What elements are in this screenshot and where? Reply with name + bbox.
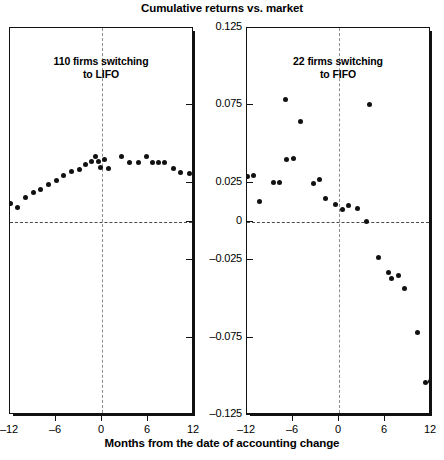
data-point xyxy=(136,160,141,165)
y-axis-tick-label: 0.125 xyxy=(196,20,242,32)
data-point xyxy=(376,255,381,260)
data-point xyxy=(144,154,149,159)
panel-annotation-lifo-line1: 110 firms switching xyxy=(10,55,192,68)
data-point xyxy=(247,174,250,179)
data-point xyxy=(257,199,262,204)
y-axis-tick-label: –0.075 xyxy=(196,330,242,342)
x-axis-tick xyxy=(338,414,339,421)
y-axis-tick xyxy=(246,27,253,28)
data-point xyxy=(311,181,316,186)
zero-month-reference-line xyxy=(339,28,340,413)
x-axis-tick xyxy=(101,414,102,421)
y-axis-tick-label: –0.025 xyxy=(196,252,242,264)
x-axis-tick-label: 0 xyxy=(325,423,351,435)
x-axis-tick-label: 12 xyxy=(180,423,206,435)
y-axis-tick-label: 0.075 xyxy=(196,97,242,109)
plot-panel-lifo: 110 firms switching to LIFO xyxy=(9,27,193,414)
zero-return-reference-line xyxy=(10,222,192,223)
y-axis-tick xyxy=(246,182,253,183)
data-point xyxy=(69,169,74,174)
data-point xyxy=(38,187,43,192)
y-axis-tick-label: 0.025 xyxy=(196,175,242,187)
data-point xyxy=(386,270,391,275)
panel-annotation-fifo-line2: to FIFO xyxy=(247,68,429,81)
y-axis-tick xyxy=(186,221,193,222)
data-point xyxy=(162,160,167,165)
data-point xyxy=(106,166,111,171)
x-axis-tick-label: –12 xyxy=(233,423,259,435)
data-point xyxy=(291,156,296,161)
data-point xyxy=(428,379,429,384)
plot-area-lifo xyxy=(10,28,192,413)
data-point xyxy=(119,154,124,159)
chart-title: Cumulative returns vs. market xyxy=(0,2,444,14)
data-point xyxy=(415,330,420,335)
data-point xyxy=(346,203,351,208)
x-axis-title: Months from the date of accounting chang… xyxy=(0,437,444,449)
data-point xyxy=(15,205,20,210)
data-point xyxy=(171,166,176,171)
y-axis-tick xyxy=(186,259,193,260)
y-axis-tick xyxy=(186,104,193,105)
x-axis-tick-label: –12 xyxy=(0,423,22,435)
panel-annotation-lifo: 110 firms switching to LIFO xyxy=(10,55,192,81)
y-axis-tick-label: –0.125 xyxy=(196,407,242,419)
x-axis-tick xyxy=(55,414,56,421)
plot-area-fifo xyxy=(247,28,429,413)
data-point xyxy=(389,276,394,281)
data-point xyxy=(323,196,328,201)
zero-return-reference-line xyxy=(247,222,429,223)
data-point xyxy=(96,159,101,164)
data-point xyxy=(283,97,288,102)
panel-annotation-lifo-line2: to LIFO xyxy=(10,68,192,81)
x-axis-tick-label: 12 xyxy=(417,423,443,435)
data-point xyxy=(317,177,322,182)
zero-month-reference-line xyxy=(102,28,103,413)
data-point xyxy=(271,180,276,185)
data-point xyxy=(396,273,401,278)
data-point xyxy=(251,173,256,178)
data-point xyxy=(150,160,155,165)
data-point xyxy=(77,167,82,172)
data-point xyxy=(364,219,369,224)
x-axis-tick xyxy=(384,414,385,421)
data-point xyxy=(31,190,36,195)
data-point xyxy=(61,173,66,178)
x-axis-tick xyxy=(292,414,293,421)
x-axis-tick xyxy=(147,414,148,421)
data-point xyxy=(333,202,338,207)
data-point xyxy=(355,206,360,211)
y-axis-tick-label: 0 xyxy=(196,214,242,226)
x-axis-tick-label: 0 xyxy=(88,423,114,435)
data-point xyxy=(102,157,107,162)
panel-annotation-fifo-line1: 22 firms switching xyxy=(247,55,429,68)
data-point xyxy=(187,171,192,176)
x-axis-tick-label: –6 xyxy=(42,423,68,435)
data-point xyxy=(98,165,103,170)
data-point xyxy=(277,180,282,185)
y-axis-tick xyxy=(246,221,253,222)
data-point xyxy=(23,195,28,200)
y-axis-tick xyxy=(246,104,253,105)
x-axis-tick-label: 6 xyxy=(134,423,160,435)
y-axis-tick xyxy=(246,337,253,338)
data-point xyxy=(10,201,13,206)
data-point xyxy=(46,182,51,187)
plot-panel-fifo: 22 firms switching to FIFO xyxy=(246,27,430,414)
y-axis-tick xyxy=(186,337,193,338)
data-point xyxy=(284,157,289,162)
x-axis-tick-label: 6 xyxy=(371,423,397,435)
panel-annotation-fifo: 22 firms switching to FIFO xyxy=(247,55,429,81)
y-axis-tick xyxy=(186,182,193,183)
y-axis-tick xyxy=(186,27,193,28)
data-point xyxy=(298,119,303,124)
data-point xyxy=(83,162,88,167)
y-axis-tick xyxy=(246,414,253,415)
data-point xyxy=(89,159,94,164)
data-point xyxy=(402,286,407,291)
data-point xyxy=(54,178,59,183)
y-axis-tick xyxy=(246,259,253,260)
data-point xyxy=(178,170,183,175)
data-point xyxy=(367,102,372,107)
data-point xyxy=(127,160,132,165)
